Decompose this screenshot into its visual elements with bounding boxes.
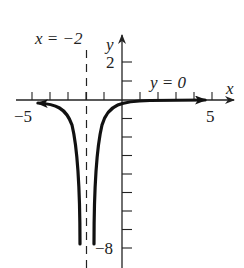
graph-canvas: x = −2 y 2 y = 0 x −5 5 −8 xyxy=(0,0,244,268)
y-axis-label: y xyxy=(104,35,114,54)
x-axis-label: x xyxy=(225,79,234,98)
horizontal-asymptote-label: y = 0 xyxy=(148,73,187,92)
y-tick-label-2: 2 xyxy=(106,53,115,72)
x-tick-label-neg5: −5 xyxy=(14,107,32,126)
x-tick-label-5: 5 xyxy=(206,107,215,126)
y-tick-label-neg8: −8 xyxy=(95,239,113,258)
y-ticks xyxy=(122,62,132,248)
curve-right-branch xyxy=(94,100,205,244)
vertical-asymptote-label: x = −2 xyxy=(34,29,83,48)
curve-left-branch xyxy=(38,103,80,244)
